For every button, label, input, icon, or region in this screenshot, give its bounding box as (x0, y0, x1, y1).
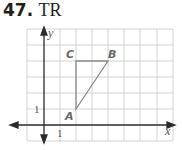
y-axis-label: y (47, 26, 54, 40)
x-axis-label: x (164, 124, 171, 138)
grid (27, 29, 173, 141)
x-tick-label: 1 (57, 127, 63, 139)
y-tick-label: 1 (34, 103, 40, 115)
coordinate-graph: y x 1 1 A B C (0, 0, 182, 150)
y-axis-arrow-up (41, 27, 47, 35)
y-axis-arrow-down (41, 135, 47, 143)
x-axis-arrow-left (10, 122, 18, 128)
point-label-c: C (66, 48, 74, 61)
point-label-b: B (108, 48, 116, 61)
point-label-a: A (64, 110, 74, 123)
